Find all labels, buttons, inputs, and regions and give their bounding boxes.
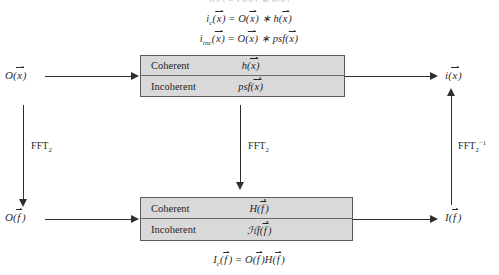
arrow-head-right-icon <box>430 215 438 223</box>
node-output-frequency: I(f ) <box>445 211 461 223</box>
spatial-row-coherent: Coherent h(x) <box>141 56 344 76</box>
frequency-row-incoherent-label: Incoherent <box>151 224 196 235</box>
imaging-system-diagram: i(x) = O(x) ∗ h(x) ic(x) = O(x) ∗ h(x) i… <box>0 0 499 275</box>
frequency-row-coherent: Coherent H(f ) <box>141 198 352 219</box>
node-input-frequency: O(f ) <box>5 211 26 223</box>
arrow-head-right-icon <box>430 72 438 80</box>
node-output-spatial: i(x) <box>445 69 462 81</box>
equation-frequency: Ic(f ) = O(f )H(f ) <box>213 254 285 268</box>
spatial-domain-box: Coherent h(x) Incoherent psf(x) <box>140 55 345 97</box>
label-left-fft: FFT2 <box>31 140 52 153</box>
spatial-row-coherent-function: h(x) <box>242 60 260 71</box>
frequency-row-incoherent: Incoherent ℋf(f ) <box>141 219 352 240</box>
frequency-row-coherent-label: Coherent <box>151 203 190 214</box>
spatial-row-incoherent-function: psf(x) <box>238 81 263 92</box>
frequency-domain-box: Coherent H(f ) Incoherent ℋf(f ) <box>140 197 353 241</box>
arrow-head-right-icon <box>131 215 139 223</box>
arrow-head-up-icon <box>447 88 455 96</box>
frequency-row-coherent-function: H(f ) <box>249 203 268 214</box>
arrow-head-down-icon <box>19 199 27 207</box>
label-right-inverse-fft: FFT2−1 <box>458 139 486 153</box>
equation-incoherent-spatial: iinc(x) = O(x) ∗ psf(x) <box>200 32 298 47</box>
spatial-row-incoherent: Incoherent psf(x) <box>141 76 344 96</box>
arrow-spatial-box-to-output <box>345 76 431 77</box>
arrow-input-to-spatial-box <box>45 76 132 77</box>
spatial-row-coherent-label: Coherent <box>151 60 190 71</box>
arrow-frequency-box-to-output <box>353 219 431 220</box>
spatial-row-incoherent-label: Incoherent <box>151 81 196 92</box>
arrow-input-to-frequency-box <box>45 219 132 220</box>
arrow-head-right-icon <box>131 72 139 80</box>
cropped-top-equation: i(x) = O(x) ∗ h(x) <box>209 0 289 2</box>
arrow-right-inverse-fft <box>451 95 452 205</box>
arrow-left-fft <box>23 105 24 200</box>
arrow-center-fft <box>240 105 241 183</box>
node-input-spatial: O(x) <box>5 69 27 81</box>
frequency-row-incoherent-function: ℋf(f ) <box>247 224 272 236</box>
arrow-head-down-icon <box>236 182 244 190</box>
equation-coherent-spatial: ic(x) = O(x) ∗ h(x) <box>206 12 291 27</box>
label-center-fft: FFT2 <box>248 140 269 153</box>
